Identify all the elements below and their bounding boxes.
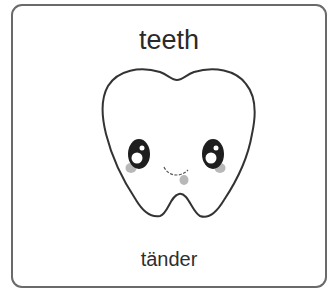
flashcard: teeth tänder: [11, 4, 327, 288]
card-title: teeth: [13, 24, 325, 56]
card-translation: tänder: [13, 246, 325, 272]
chin-blush: [180, 175, 189, 185]
right-eye-icon: [202, 139, 224, 169]
tooth-outline: [103, 69, 255, 217]
left-eye-icon: [128, 139, 150, 169]
tooth-icon: [100, 66, 260, 231]
